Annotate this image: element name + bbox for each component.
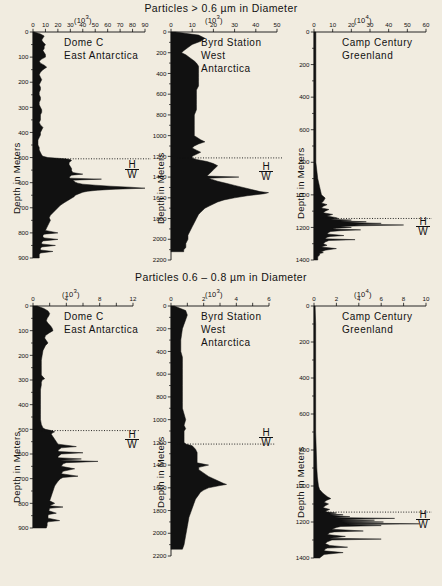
site-name-line1: Dome C: [64, 37, 104, 48]
panel-bottom-camp-century: (104) Camp Century Greenland Depth in Me…: [286, 288, 442, 584]
hw-w-label: W: [259, 438, 273, 447]
site-caption: Byrd Station West Antarctica: [201, 36, 261, 75]
site-name-line2: East Antarctica: [64, 324, 138, 335]
svg-text:2: 2: [335, 295, 339, 302]
svg-text:0: 0: [169, 21, 173, 28]
svg-text:1400: 1400: [296, 554, 310, 561]
top-section-title: Particles > 0.6 µm in Diameter: [0, 2, 442, 14]
svg-text:1200: 1200: [296, 224, 310, 231]
svg-text:400: 400: [18, 129, 29, 136]
svg-text:400: 400: [18, 401, 29, 408]
hw-marker: H W: [125, 430, 139, 449]
svg-text:50: 50: [274, 21, 281, 28]
x-axis-exponent-label: (103): [62, 288, 80, 299]
hw-marker: H W: [259, 162, 273, 181]
svg-text:10: 10: [189, 21, 196, 28]
depth-axis-title: Depth in Meters: [155, 436, 166, 508]
site-name-line3: Antarctica: [201, 337, 250, 348]
hw-marker: H W: [416, 217, 430, 236]
svg-text:200: 200: [18, 78, 29, 85]
hw-w-label: W: [125, 440, 139, 449]
svg-text:200: 200: [156, 49, 167, 56]
svg-text:12: 12: [130, 295, 137, 302]
depth-axis-title: Depth in Meters: [295, 446, 306, 518]
svg-text:6: 6: [379, 295, 383, 302]
hw-w-label: W: [416, 520, 430, 529]
svg-text:400: 400: [299, 93, 310, 100]
svg-text:6: 6: [267, 295, 271, 302]
svg-text:800: 800: [156, 111, 167, 118]
svg-text:0: 0: [169, 295, 173, 302]
svg-text:60: 60: [423, 21, 430, 28]
site-caption: Camp Century Greenland: [342, 310, 412, 336]
panel-top-byrd: (103) Byrd Station West Antarctica Depth…: [143, 14, 293, 266]
svg-text:1000: 1000: [153, 132, 167, 139]
site-caption: Dome C East Antarctica: [64, 36, 138, 62]
site-caption: Camp Century Greenland: [342, 36, 412, 62]
svg-text:0: 0: [306, 302, 310, 309]
x-axis-exponent-label: (104): [354, 14, 372, 25]
hw-w-label: W: [125, 170, 139, 179]
svg-text:10: 10: [423, 295, 430, 302]
svg-text:60: 60: [104, 21, 111, 28]
svg-text:30: 30: [231, 21, 238, 28]
svg-text:40: 40: [385, 21, 392, 28]
svg-text:10: 10: [329, 21, 336, 28]
x-axis-exponent-label: (103): [205, 14, 223, 25]
svg-text:20: 20: [54, 21, 61, 28]
site-name-line2: West: [201, 324, 226, 335]
hw-w-label: W: [259, 172, 273, 181]
site-name-line1: Byrd Station: [201, 311, 261, 322]
svg-text:0: 0: [312, 21, 316, 28]
svg-text:0: 0: [25, 28, 29, 35]
panel-bottom-dome-c: (103) Dome C East Antarctica Depth in Me…: [0, 288, 152, 584]
site-name-line3: Antarctica: [201, 63, 250, 74]
svg-text:40: 40: [252, 21, 259, 28]
svg-text:600: 600: [156, 90, 167, 97]
svg-text:400: 400: [299, 374, 310, 381]
x-axis-exponent-label: (103): [205, 288, 223, 299]
depth-axis-title: Depth in Meters: [295, 147, 306, 219]
site-name-line2: Greenland: [342, 50, 393, 61]
svg-text:8: 8: [98, 295, 102, 302]
svg-text:4: 4: [235, 295, 239, 302]
site-name-line1: Dome C: [64, 311, 104, 322]
svg-text:50: 50: [92, 21, 99, 28]
svg-text:0: 0: [163, 28, 167, 35]
svg-text:2200: 2200: [153, 256, 167, 263]
svg-text:0: 0: [31, 295, 35, 302]
svg-text:0: 0: [163, 302, 167, 309]
svg-text:200: 200: [156, 325, 167, 332]
svg-text:900: 900: [18, 254, 29, 261]
site-name-line2: West: [201, 50, 226, 61]
svg-text:0: 0: [312, 295, 316, 302]
svg-text:200: 200: [299, 61, 310, 68]
svg-text:300: 300: [18, 104, 29, 111]
hw-w-label: W: [416, 227, 430, 236]
depth-axis-title: Depth in Meters: [155, 152, 166, 224]
panel-top-dome-c: (103) Dome C East Antarctica Depth in Me…: [0, 14, 152, 266]
svg-text:400: 400: [156, 70, 167, 77]
svg-text:100: 100: [18, 327, 29, 334]
svg-text:0: 0: [31, 21, 35, 28]
svg-text:200: 200: [299, 338, 310, 345]
svg-text:600: 600: [299, 126, 310, 133]
site-caption: Byrd Station West Antarctica: [201, 310, 261, 349]
svg-text:0: 0: [25, 302, 29, 309]
svg-text:800: 800: [18, 229, 29, 236]
svg-text:300: 300: [18, 376, 29, 383]
bottom-section-title: Particles 0.6 – 0.8 µm in Diameter: [0, 271, 442, 283]
svg-text:10: 10: [42, 21, 49, 28]
svg-text:400: 400: [156, 348, 167, 355]
svg-text:2200: 2200: [153, 552, 167, 559]
panel-bottom-byrd: (103) Byrd Station West Antarctica Depth…: [143, 288, 293, 584]
svg-text:100: 100: [18, 53, 29, 60]
hw-marker: H W: [259, 428, 273, 447]
site-name-line1: Camp Century: [342, 311, 412, 322]
figure-ice-core-particle-profiles: Particles > 0.6 µm in Diameter Particles…: [0, 0, 442, 586]
svg-text:80: 80: [129, 21, 136, 28]
depth-axis-title: Depth in Meters: [11, 431, 22, 503]
x-axis-exponent-label: (103): [74, 14, 92, 25]
svg-text:2000: 2000: [153, 529, 167, 536]
svg-text:600: 600: [299, 410, 310, 417]
